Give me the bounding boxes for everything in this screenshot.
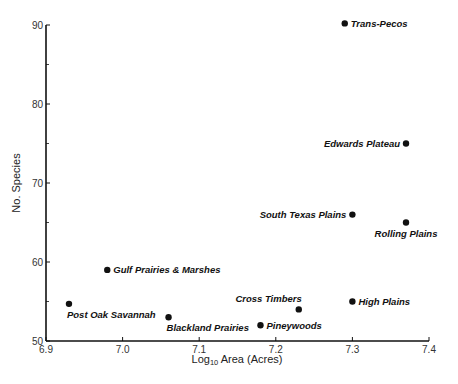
point-label: South Texas Plains: [260, 209, 347, 220]
point-label: Rolling Plains: [375, 228, 438, 239]
data-point: Edwards Plateau: [324, 138, 409, 149]
x-tick-label: 7.3: [345, 344, 359, 355]
data-point: Rolling Plains: [375, 219, 438, 238]
point-label: Trans-Pecos: [351, 18, 408, 29]
point-label: High Plains: [358, 296, 410, 307]
point-marker: [257, 322, 263, 328]
point-marker: [349, 211, 355, 217]
data-point: Gulf Prairies & Marshes: [104, 264, 220, 275]
scatter-chart: 6.97.07.17.27.37.4 5060708090 Log10 Area…: [0, 0, 458, 384]
point-marker: [165, 314, 171, 320]
point-marker: [342, 20, 348, 26]
y-ticks: 5060708090: [32, 20, 50, 347]
data-point: Cross Timbers: [235, 293, 302, 312]
y-tick-label: 50: [32, 336, 44, 347]
point-marker: [104, 267, 110, 273]
y-axis-title: No. Species: [10, 153, 22, 213]
x-tick-label: 7.0: [116, 344, 130, 355]
data-point: South Texas Plains: [260, 209, 356, 220]
data-point: Trans-Pecos: [342, 18, 408, 29]
point-label: Blackland Prairies: [167, 322, 249, 333]
y-tick-label: 70: [32, 178, 44, 189]
point-label: Cross Timbers: [235, 293, 301, 304]
data-point: Post Oak Savannah: [66, 301, 156, 320]
point-marker: [349, 298, 355, 304]
point-marker: [296, 306, 302, 312]
y-tick-label: 90: [32, 20, 44, 31]
x-tick-label: 7.4: [422, 344, 436, 355]
point-label: Edwards Plateau: [324, 138, 400, 149]
y-tick-label: 60: [32, 257, 44, 268]
point-marker: [403, 140, 409, 146]
point-marker: [403, 219, 409, 225]
x-axis-title: Log10 Area (Acres): [192, 353, 283, 367]
data-point: Pineywoods: [257, 320, 322, 331]
point-label: Gulf Prairies & Marshes: [113, 264, 220, 275]
y-tick-label: 80: [32, 99, 44, 110]
point-label: Post Oak Savannah: [67, 309, 156, 320]
data-points: Trans-PecosEdwards PlateauSouth Texas Pl…: [66, 18, 438, 333]
data-point: Blackland Prairies: [165, 314, 249, 333]
data-point: High Plains: [349, 296, 410, 307]
point-marker: [66, 301, 72, 307]
point-label: Pineywoods: [266, 320, 321, 331]
